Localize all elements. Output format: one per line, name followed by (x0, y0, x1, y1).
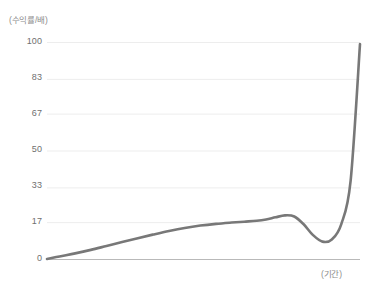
x-axis-unit-label: (기간) (321, 267, 342, 279)
gridlines-group (47, 43, 360, 223)
chart-container: (수익률/배) 100 83 67 50 33 17 0 (기간) (0, 0, 367, 295)
data-series-line (47, 44, 360, 259)
plot-area (0, 0, 367, 295)
